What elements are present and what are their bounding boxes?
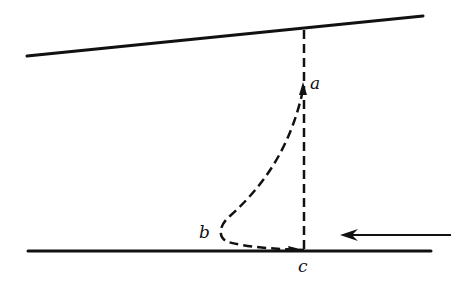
label-c: c [298,256,308,276]
label-a: a [310,73,320,93]
upper-boundary-line [27,16,423,56]
arrowhead-at-a-icon [299,82,307,95]
trajectory-curve [221,90,304,250]
label-b: b [199,222,210,242]
diagram-canvas: a b c [0,0,475,292]
